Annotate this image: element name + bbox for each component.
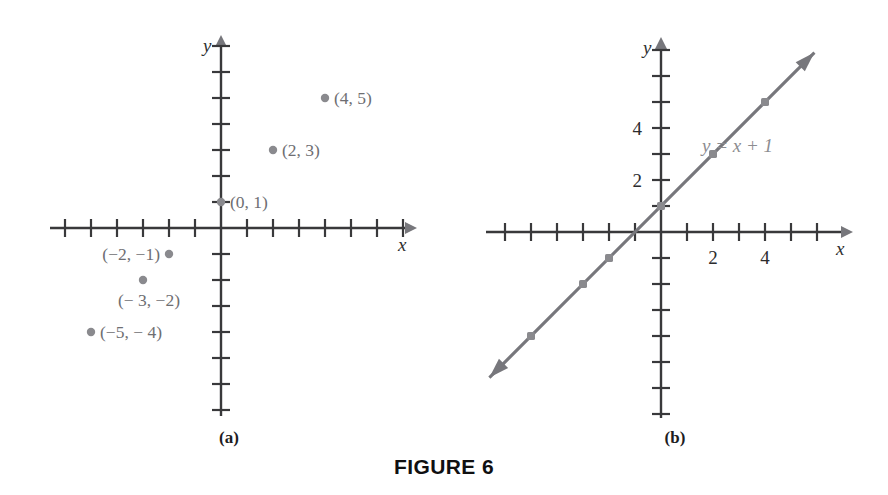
point-coordinate-label: (4, 5) <box>334 88 372 108</box>
scatter-point: (0, 1) <box>217 192 268 212</box>
x-axis-arrowhead-icon <box>841 226 853 238</box>
x-axis-arrowhead-icon <box>405 222 417 234</box>
x-axis-tick-label: 4 <box>760 247 770 268</box>
panel-b-line-graph: 24 x 24 y y = x + 1 <box>444 0 888 495</box>
y-axis-arrowhead-icon <box>655 37 667 49</box>
figure-container: x y (0, 1)(2, 3)(4, 5)(−2, −1)(− 3, −2)(… <box>0 0 888 495</box>
equation-label: y = x + 1 <box>700 135 773 156</box>
point-marker <box>139 276 147 284</box>
scatter-point: (4, 5) <box>321 88 372 108</box>
panel-a-y-axis: y <box>201 35 230 416</box>
scatter-point: (− 3, −2) <box>118 276 180 310</box>
y-axis-tick-label: 4 <box>633 118 643 139</box>
x-axis-label: x <box>835 238 845 259</box>
panel-b-x-axis: 24 x <box>486 223 853 268</box>
point-coordinate-label: (2, 3) <box>282 140 320 160</box>
point-marker <box>165 250 173 258</box>
line-point-marker <box>527 332 535 340</box>
function-line-group <box>489 53 814 378</box>
line-point-marker <box>579 280 587 288</box>
line-point-marker <box>761 98 769 106</box>
x-axis-tick-label: 2 <box>708 247 718 268</box>
line-point-marker <box>605 254 613 262</box>
panel-a-scatter-plot: x y (0, 1)(2, 3)(4, 5)(−2, −1)(− 3, −2)(… <box>0 0 444 495</box>
x-axis-label: x <box>397 234 407 255</box>
y-axis-tick-labels: 24 <box>633 118 643 191</box>
point-coordinate-label: (0, 1) <box>230 192 268 212</box>
point-marker <box>321 94 329 102</box>
y-axis-label: y <box>201 35 212 56</box>
y-axis-label: y <box>641 37 652 58</box>
scatter-point: (−2, −1) <box>102 244 173 264</box>
line-point-marker <box>657 202 665 210</box>
point-marker <box>217 198 225 206</box>
point-coordinate-label: (−2, −1) <box>102 244 160 264</box>
x-axis-tick-labels: 24 <box>708 247 770 268</box>
point-coordinate-label: (−5, − 4) <box>100 322 162 342</box>
point-marker <box>87 328 95 336</box>
scatter-point: (2, 3) <box>269 140 320 160</box>
y-axis-tick-label: 2 <box>633 170 643 191</box>
scatter-points-group: (0, 1)(2, 3)(4, 5)(−2, −1)(− 3, −2)(−5, … <box>87 88 372 342</box>
point-coordinate-label: (− 3, −2) <box>118 290 180 310</box>
point-marker <box>269 146 277 154</box>
panel-b-caption: (b) <box>645 428 705 448</box>
scatter-point: (−5, − 4) <box>87 322 162 342</box>
panel-a-caption: (a) <box>199 428 259 448</box>
figure-caption: FIGURE 6 <box>0 455 888 479</box>
